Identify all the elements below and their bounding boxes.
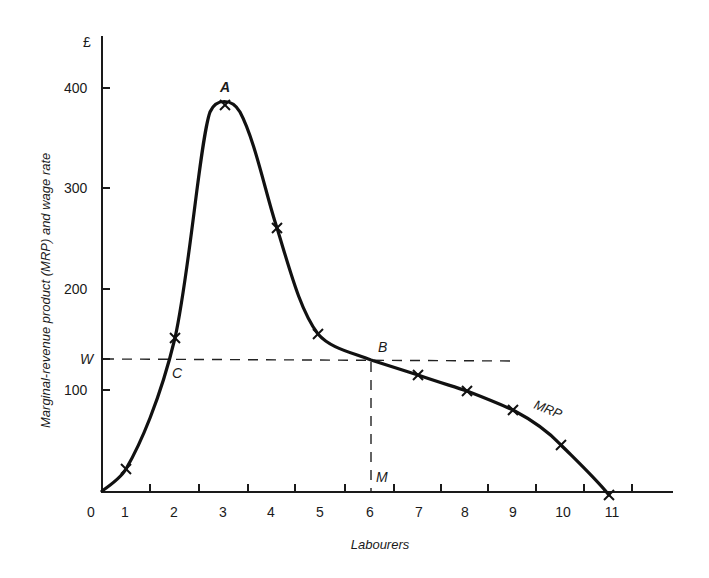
marker-x-icon bbox=[121, 464, 131, 474]
y-tick-label: 100 bbox=[64, 382, 88, 398]
x-tick-label: 8 bbox=[461, 504, 469, 520]
point-label-b: B bbox=[378, 339, 387, 355]
y-ticks: 400 300 200 100 W bbox=[64, 80, 110, 398]
x-tick-label: 1 bbox=[121, 504, 129, 520]
x-tick-label: 6 bbox=[366, 504, 374, 520]
x-tick-labels: 0 1 2 3 4 5 6 7 8 9 10 11 bbox=[87, 504, 619, 520]
x-tick-label: 0 bbox=[87, 504, 95, 520]
x-axis-title: Labourers bbox=[351, 537, 410, 552]
y-axis-title: Marginal-revenue product (MRP) and wage … bbox=[38, 153, 53, 428]
point-label-m: M bbox=[376, 469, 388, 485]
point-label-c: C bbox=[172, 365, 183, 381]
point-label-a: A bbox=[219, 79, 230, 95]
x-tick-label: 11 bbox=[605, 504, 620, 520]
marker-x-icon bbox=[556, 440, 566, 450]
y-tick-label: 400 bbox=[64, 80, 88, 96]
y-tick-label: 300 bbox=[64, 180, 88, 196]
x-tick-label: 9 bbox=[509, 504, 517, 520]
wage-label-w: W bbox=[80, 351, 95, 367]
x-tick-label: 5 bbox=[316, 504, 324, 520]
y-unit-symbol: £ bbox=[83, 34, 91, 50]
x-tick-label: 2 bbox=[170, 504, 178, 520]
x-ticks bbox=[150, 484, 632, 492]
mrp-curve bbox=[102, 102, 609, 496]
wage-line bbox=[104, 359, 516, 361]
curve-label-mrp: MRP bbox=[532, 397, 565, 422]
marker-x-icon bbox=[313, 329, 323, 339]
mrp-chart: £ 400 300 200 100 W Marginal-revenue pro… bbox=[0, 0, 709, 578]
data-point-markers bbox=[121, 100, 614, 500]
x-tick-label: 3 bbox=[219, 504, 227, 520]
y-tick-label: 200 bbox=[64, 281, 88, 297]
x-tick-label: 4 bbox=[267, 504, 275, 520]
x-tick-label: 7 bbox=[415, 504, 423, 520]
x-tick-label: 10 bbox=[555, 504, 571, 520]
